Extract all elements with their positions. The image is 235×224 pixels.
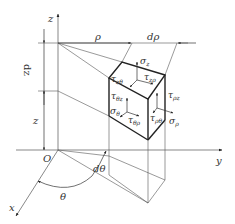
tau-z-theta-label: τzθ [111, 74, 123, 85]
sigma-theta-label: σθ [110, 106, 120, 117]
tau-rho-theta-label: τρθ [150, 113, 163, 125]
drho-label: dρ [147, 31, 159, 42]
dtheta-label: dθ [93, 163, 105, 174]
stress-labels: σz τzθ τzρ τθz τρz σθ τθρ τρθ σρ [110, 56, 181, 128]
base-ray-3 [109, 156, 165, 180]
drho-ext-2 [165, 43, 177, 75]
y-axis-label: y [215, 155, 222, 166]
sigma-theta-arrow [120, 112, 127, 117]
tau-theta-z-label: τθz [111, 91, 124, 102]
x-axis-label: x [9, 202, 15, 213]
base-edge [148, 180, 165, 203]
origin-label: O [43, 153, 51, 164]
base-inner [109, 175, 148, 203]
sigma-z-label: σz [140, 56, 150, 67]
theta-label: θ [60, 191, 66, 202]
z-axis-label: z [47, 13, 54, 24]
drho-ext-1 [122, 43, 132, 62]
base-ray-1 [58, 150, 109, 156]
tau-z-theta-arrow [130, 80, 137, 87]
dz-label: dz [22, 64, 33, 76]
x-axis [16, 150, 58, 216]
tau-theta-rho-label: τθρ [128, 115, 141, 127]
cylindrical-stress-element-diagram: z y x O ρ dρ dz [0, 0, 235, 224]
construction-lines [38, 43, 188, 203]
sigma-rho-label: σρ [169, 116, 179, 128]
theta-arc [38, 176, 92, 187]
ray-top-1 [58, 43, 122, 62]
ray-mid-1 [58, 91, 109, 116]
rho-label: ρ [94, 31, 101, 42]
ray-top-2 [58, 43, 109, 78]
tau-rho-z-label: τρz [168, 90, 181, 102]
z-label: z [32, 115, 39, 126]
